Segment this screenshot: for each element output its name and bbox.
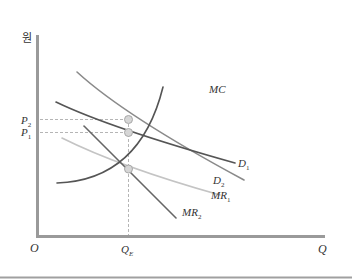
origin-label: O — [30, 241, 39, 255]
p1-point — [125, 129, 133, 137]
mr1-label: MR1 — [210, 189, 231, 204]
guide-lines — [40, 119, 129, 235]
x-axis-label: Q — [318, 242, 327, 256]
equilibrium-point — [125, 165, 133, 173]
mr1-curve — [62, 138, 220, 195]
chart-figure: 원 Q O P2 P1 QE MC D1 D2 MR1 MR2 — [0, 0, 352, 279]
qe-label: QE — [121, 243, 134, 258]
mr2-label: MR2 — [181, 206, 202, 221]
mc-curve — [57, 87, 163, 183]
d2-label: D2 — [212, 174, 225, 189]
d1-label: D1 — [237, 157, 250, 172]
p2-point — [125, 116, 133, 124]
mc-label: MC — [208, 83, 226, 95]
y-axis-label: 원 — [22, 32, 32, 45]
axes — [36, 35, 325, 238]
